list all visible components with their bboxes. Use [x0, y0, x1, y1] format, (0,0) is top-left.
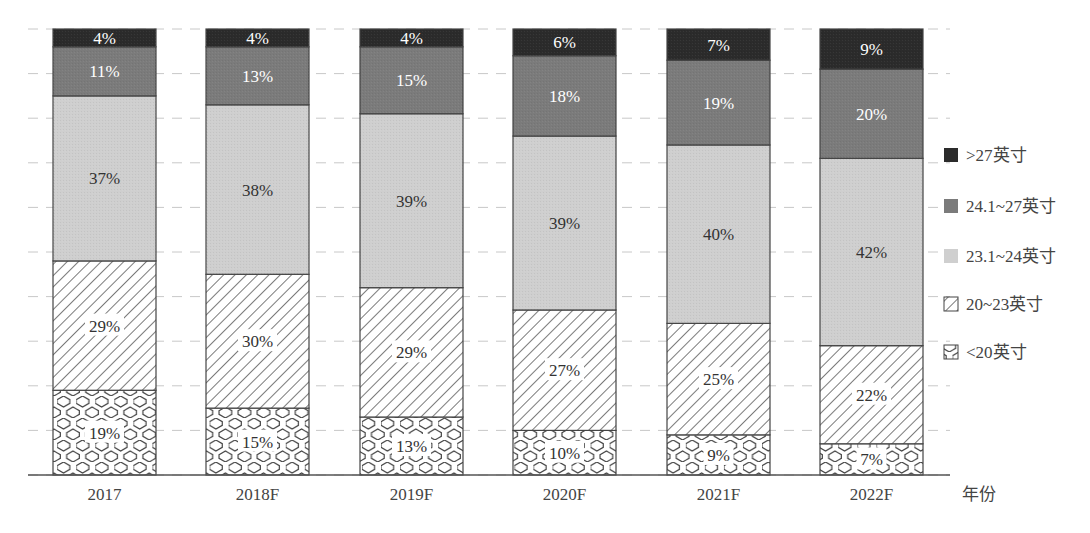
legend-swatch-icon	[944, 249, 958, 263]
bar-2022F: 7%22%42%20%9%	[820, 29, 923, 475]
segment-value-label: 4%	[246, 29, 269, 48]
x-tick-label: 2022F	[850, 485, 893, 504]
segment-value-label: 19%	[703, 94, 734, 113]
legend-swatch-icon	[944, 297, 958, 311]
legend-item: 20~23英寸	[944, 295, 1043, 314]
bar-2017: 19%29%37%11%4%	[53, 29, 156, 475]
segment-value-label: 22%	[856, 386, 887, 405]
segment-value-label: 4%	[93, 29, 116, 48]
x-tick-label: 2018F	[236, 485, 279, 504]
segment-value-label: 29%	[396, 343, 427, 362]
segment-value-label: 9%	[860, 40, 883, 59]
legend: >27英寸24.1~27英寸23.1~24英寸20~23英寸<20英寸	[944, 146, 1056, 362]
legend-label: <20英寸	[966, 343, 1027, 362]
segment-value-label: 11%	[89, 62, 120, 81]
segment-value-label: 9%	[707, 446, 730, 465]
segment-value-label: 10%	[549, 444, 580, 463]
segment-value-label: 39%	[549, 214, 580, 233]
legend-item: 24.1~27英寸	[944, 197, 1056, 216]
legend-label: 24.1~27英寸	[966, 197, 1056, 216]
segment-value-label: 37%	[89, 169, 120, 188]
legend-swatch-icon	[944, 148, 958, 162]
x-tick-label: 2021F	[697, 485, 740, 504]
legend-label: 23.1~24英寸	[966, 247, 1056, 266]
segment-value-label: 7%	[860, 450, 883, 469]
x-axis-tick-labels: 20172018F2019F2020F2021F2022F	[88, 485, 894, 504]
bar-2020F: 10%27%39%18%6%	[513, 29, 616, 475]
segment-value-label: 6%	[553, 33, 576, 52]
segment-value-label: 38%	[242, 181, 273, 200]
legend-item: >27英寸	[944, 146, 1027, 165]
segment-value-label: 15%	[242, 433, 273, 452]
legend-item: 23.1~24英寸	[944, 247, 1056, 266]
x-tick-label: 2020F	[543, 485, 586, 504]
segment-value-label: 4%	[400, 29, 423, 48]
segment-value-label: 40%	[703, 225, 734, 244]
bar-2021F: 9%25%40%19%7%	[667, 29, 770, 475]
segment-value-label: 39%	[396, 192, 427, 211]
gridlines	[28, 29, 950, 475]
legend-label: 20~23英寸	[966, 295, 1043, 314]
legend-label: >27英寸	[966, 146, 1027, 165]
bar-2018F: 15%30%38%13%4%	[206, 29, 309, 475]
segment-value-label: 13%	[242, 67, 273, 86]
segment-value-label: 13%	[396, 437, 427, 456]
segment-value-label: 29%	[89, 317, 120, 336]
segment-value-label: 7%	[707, 36, 730, 55]
legend-item: <20英寸	[944, 343, 1027, 362]
stacked-bar-chart: 19%29%37%11%4%15%30%38%13%4%13%29%39%15%…	[0, 0, 1090, 533]
segment-value-label: 30%	[242, 332, 273, 351]
x-axis-title: 年份	[962, 485, 996, 504]
x-tick-label: 2019F	[390, 485, 433, 504]
segment-value-label: 15%	[396, 71, 427, 90]
segment-value-label: 19%	[89, 424, 120, 443]
segment-value-label: 20%	[856, 105, 887, 124]
bar-2019F: 13%29%39%15%4%	[360, 29, 463, 475]
segment-value-label: 27%	[549, 361, 580, 380]
x-tick-label: 2017	[88, 485, 123, 504]
segment-value-label: 18%	[549, 87, 580, 106]
legend-swatch-icon	[944, 345, 958, 359]
segment-value-label: 42%	[856, 243, 887, 262]
legend-swatch-icon	[944, 199, 958, 213]
segment-value-label: 25%	[703, 370, 734, 389]
